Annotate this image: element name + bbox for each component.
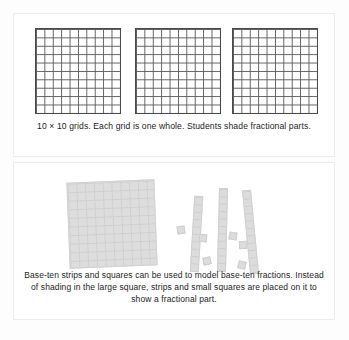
unit-square-1 <box>176 225 185 234</box>
unit-square-4 <box>228 231 237 240</box>
unit-square-2 <box>199 234 208 243</box>
unit-square-5 <box>239 241 248 250</box>
figure-canvas: 10 × 10 grids. Each grid is one whole. S… <box>0 0 349 340</box>
ten-by-ten-grids-caption: 10 × 10 grids. Each grid is one whole. S… <box>20 121 328 133</box>
ten-by-ten-grid-2 <box>135 28 221 114</box>
hundred-flat-square <box>66 179 157 268</box>
unit-square-3 <box>202 256 211 265</box>
ten-by-ten-grid-1 <box>35 28 121 114</box>
ten-by-ten-grid-3 <box>232 28 318 114</box>
base-ten-manipulatives-caption: Base-ten strips and squares can be used … <box>24 270 324 305</box>
